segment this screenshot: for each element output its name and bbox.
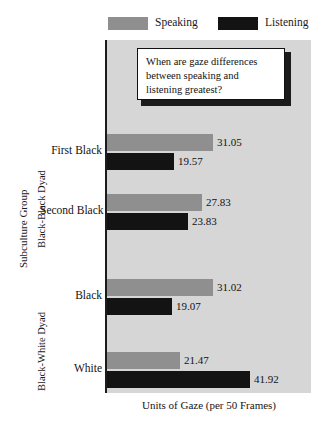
bar-value-speaking-second-black: 27.83 xyxy=(206,194,231,211)
bar-value-speaking-white: 21.47 xyxy=(184,352,209,369)
bar-chart: Speaking Listening When are gaze differe… xyxy=(0,0,328,428)
bar-value-listening-white: 41.92 xyxy=(254,371,279,388)
category-label-second-black: Second Black xyxy=(40,204,102,216)
bar-listening-black xyxy=(107,298,172,315)
callout-line-3: listening greatest? xyxy=(146,83,276,97)
bar-speaking-second-black xyxy=(107,194,202,211)
category-labels: First Black Second Black Black White xyxy=(38,40,102,393)
bar-value-listening-first-black: 19.57 xyxy=(178,153,203,170)
x-axis-title: Units of Gaze (per 50 Frames) xyxy=(107,399,311,411)
callout-line-1: When are gaze differences xyxy=(146,55,276,69)
black-swatch-icon xyxy=(218,17,258,30)
category-label-white: White xyxy=(40,362,102,374)
chart-legend: Speaking Listening xyxy=(108,14,323,34)
y-axis-title: Subculture Group xyxy=(17,189,29,268)
legend-label-listening: Listening xyxy=(265,17,308,29)
callout-box: When are gaze differences between speaki… xyxy=(137,48,285,100)
bar-listening-second-black xyxy=(107,213,188,230)
bar-speaking-first-black xyxy=(107,134,213,151)
bar-value-listening-second-black: 23.83 xyxy=(192,213,217,230)
category-label-black: Black xyxy=(40,289,102,301)
bar-listening-first-black xyxy=(107,153,174,170)
group-label-black-white-dyad: Black-White Dyad xyxy=(36,312,47,391)
bar-value-speaking-black: 31.02 xyxy=(217,279,242,296)
bar-value-speaking-first-black: 31.05 xyxy=(217,134,242,151)
legend-label-speaking: Speaking xyxy=(155,17,198,29)
group-label-black-black-dyad: Black-Black Dyad xyxy=(36,170,47,248)
bar-speaking-white xyxy=(107,352,180,369)
gray-swatch-icon xyxy=(108,17,148,30)
category-label-first-black: First Black xyxy=(40,144,102,156)
callout-line-2: between speaking and xyxy=(146,69,276,83)
bar-listening-white xyxy=(107,371,250,388)
bar-value-listening-black: 19.07 xyxy=(176,298,201,315)
legend-item-listening: Listening xyxy=(218,14,308,32)
legend-item-speaking: Speaking xyxy=(108,14,198,32)
bar-speaking-black xyxy=(107,279,213,296)
